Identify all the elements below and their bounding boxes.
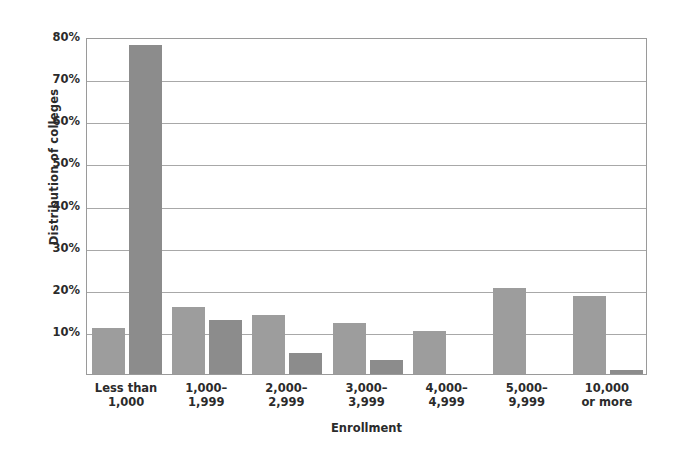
bar-group [413,39,483,374]
bar-group [252,39,322,374]
bar-group [333,39,403,374]
bar [610,370,643,374]
bar-group [573,39,643,374]
bar [209,320,242,374]
y-tick-label: 80% [36,32,80,44]
y-axis-tick-labels: 10%20%30%40%50%60%70%80% [32,0,80,455]
x-axis-title: Enrollment [86,421,647,435]
bar [289,353,322,374]
x-tick-label-line: 9,999 [487,395,567,409]
x-tick-label-line: 1,000 [86,395,166,409]
x-tick-label: 4,000–4,999 [407,381,487,409]
y-tick-label: 30% [36,243,80,255]
bar-series-container [87,39,646,374]
y-tick-label: 40% [36,201,80,213]
x-tick-label: 10,000or more [567,381,647,409]
bar [172,307,205,374]
bar [129,45,162,374]
x-tick-label-line: 2,999 [246,395,326,409]
x-tick-label: 3,000–3,999 [326,381,406,409]
x-tick-label: 1,000–1,999 [166,381,246,409]
y-tick-label: 20% [36,285,80,297]
x-tick-label-line: 5,000– [487,381,567,395]
x-tick-label-line: 4,999 [407,395,487,409]
bar [252,315,285,374]
x-tick-label-line: 2,000– [246,381,326,395]
x-axis-tick-labels: Less than1,0001,000–1,9992,000–2,9993,00… [86,381,647,421]
bar [370,360,403,374]
x-tick-label-line: 1,999 [166,395,246,409]
bar [493,288,526,374]
bar [333,323,366,374]
x-tick-label: 5,000–9,999 [487,381,567,409]
x-tick-label: 2,000–2,999 [246,381,326,409]
x-tick-label-line: 3,999 [326,395,406,409]
bar-chart: Distribution of colleges 10%20%30%40%50%… [0,0,682,455]
bar [413,331,446,374]
y-tick-label: 10% [36,327,80,339]
x-tick-label: Less than1,000 [86,381,166,409]
x-tick-label-line: 4,000– [407,381,487,395]
x-tick-label-line: 10,000 [567,381,647,395]
bar [92,328,125,374]
bar-group [172,39,242,374]
y-tick-label: 70% [36,74,80,86]
x-tick-label-line: or more [567,395,647,409]
x-tick-label-line: 1,000– [166,381,246,395]
y-tick-label: 50% [36,158,80,170]
x-tick-label-line: Less than [86,381,166,395]
plot-area [86,38,647,375]
x-tick-label-line: 3,000– [326,381,406,395]
bar-group [493,39,563,374]
bar [573,296,606,374]
bar-group [92,39,162,374]
y-tick-label: 60% [36,116,80,128]
